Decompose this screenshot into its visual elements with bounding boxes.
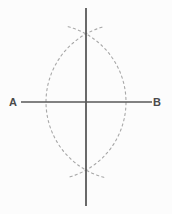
geometry-figure: A B — [0, 0, 172, 214]
construction-drawing: A B — [0, 0, 172, 214]
label-point-b: B — [153, 96, 161, 108]
label-point-a: A — [9, 96, 17, 108]
